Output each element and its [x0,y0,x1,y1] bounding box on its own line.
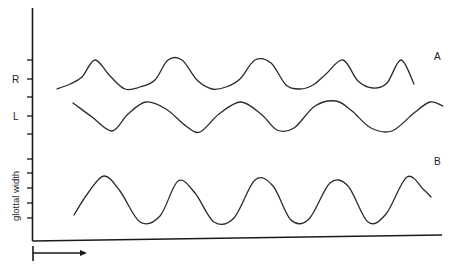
tick-label-l: L [13,111,19,122]
trace-a-l [73,101,443,133]
time-arrow-icon [33,246,87,261]
panel-label-b: B [434,156,441,167]
trace-a-r [57,58,414,90]
tick-label-r: R [12,74,19,85]
x-axis [33,235,443,241]
panel-label-a: A [434,51,441,62]
y-axis-label: glottal width [10,171,21,221]
glottal-chart: R L glottal width A B [0,0,455,265]
trace-b-glottal-width [74,176,431,224]
